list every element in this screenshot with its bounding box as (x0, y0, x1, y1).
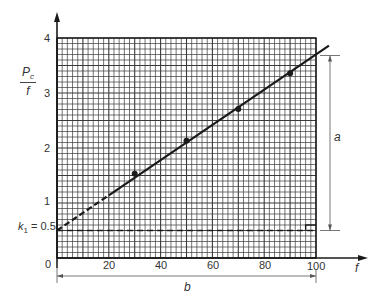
x-tick-60: 60 (207, 260, 219, 271)
y-axis-label: Pc f (20, 65, 36, 98)
x-tick-100: 100 (307, 261, 325, 272)
y-label-subscript: c (30, 72, 34, 81)
dimension-lines (57, 56, 340, 284)
origin-label: 0 (45, 259, 51, 270)
y-tick-2: 2 (44, 143, 50, 154)
x-axis-label: f (355, 262, 358, 274)
x-tick-40: 40 (155, 260, 167, 271)
data-point (235, 106, 241, 112)
dimension-a-label: a (334, 131, 341, 143)
x-tick-20: 20 (103, 260, 115, 271)
grid (57, 38, 316, 258)
data-point (287, 70, 293, 76)
intercept-subscript: 1 (24, 226, 28, 235)
data-point (184, 138, 190, 144)
x-tick-80: 80 (259, 260, 271, 271)
y-tick-3: 3 (44, 88, 50, 99)
intercept-value: = 0.5 (31, 220, 56, 232)
dimension-b-label: b (184, 281, 191, 293)
chart-canvas (0, 0, 383, 301)
intercept-label: k1 = 0.5 (18, 221, 56, 235)
y-tick-4: 4 (44, 33, 50, 44)
y-label-denominator: f (20, 83, 36, 98)
data-point (132, 171, 138, 177)
y-tick-1: 1 (44, 196, 50, 207)
y-label-numerator: P (22, 65, 30, 79)
